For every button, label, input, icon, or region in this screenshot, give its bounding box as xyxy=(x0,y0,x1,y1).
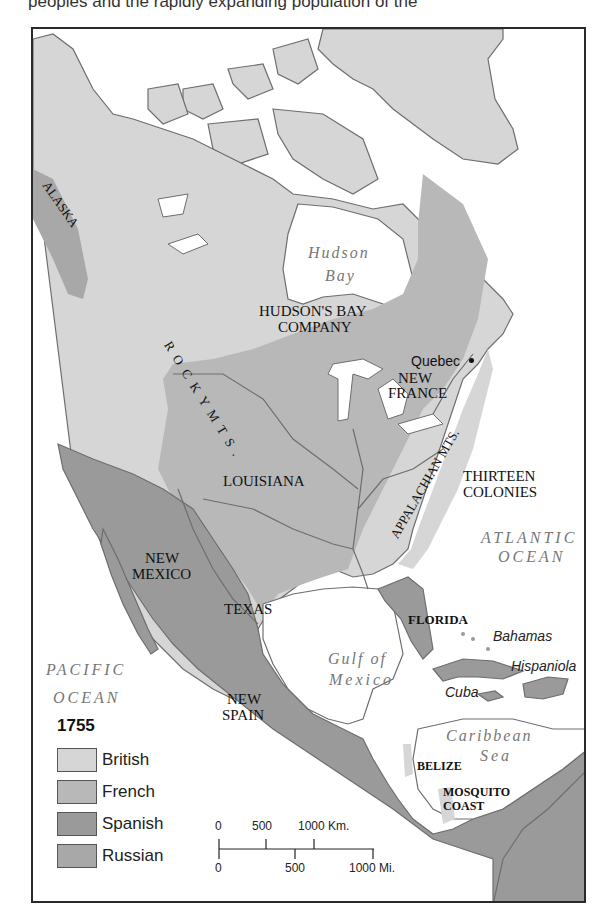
scale-bar: 0 500 1000 Km. 0 500 1000 Mi. xyxy=(218,819,378,899)
legend-item-russian: Russian xyxy=(57,840,163,872)
label-pacific-2: OCEAN xyxy=(53,689,120,707)
label-atlantic-1: ATLANTIC xyxy=(481,529,577,547)
scale-km-1000: 1000 Km. xyxy=(298,819,349,833)
label-gulf-1: Gulf of xyxy=(328,650,387,668)
legend-label: Russian xyxy=(102,846,163,866)
label-hudson-bay-1: Hudson xyxy=(308,244,370,262)
label-belize: BELIZE xyxy=(417,760,462,772)
label-thirteen-colonies-2: COLONIES xyxy=(463,485,537,500)
label-texas: TEXAS xyxy=(224,602,272,617)
scale-km-500: 500 xyxy=(252,819,272,833)
arctic-island-3 xyxy=(273,39,318,84)
scale-mi-500: 500 xyxy=(285,861,305,875)
swatch-russian xyxy=(57,844,97,868)
belize-region xyxy=(403,744,413,777)
label-florida: FLORIDA xyxy=(408,613,468,626)
label-new-spain-2: SPAIN xyxy=(222,708,264,723)
jamaica-island xyxy=(478,691,503,701)
scale-km-0: 0 xyxy=(215,819,222,833)
bahamas-dot-3 xyxy=(486,647,490,651)
legend-item-french: French xyxy=(57,776,163,808)
legend-item-british: British xyxy=(57,744,163,776)
arctic-island-1 xyxy=(183,84,223,119)
label-new-mexico-1: NEW xyxy=(145,551,179,566)
map-legend: 1755 British French Spanish Russian xyxy=(57,716,163,872)
arctic-island-2 xyxy=(228,64,273,99)
quebec-dot xyxy=(469,358,474,363)
swatch-spanish xyxy=(57,812,97,836)
arctic-island-5 xyxy=(148,84,188,124)
label-hispaniola: Hispaniola xyxy=(511,659,576,673)
legend-title: 1755 xyxy=(57,716,163,736)
legend-item-spanish: Spanish xyxy=(57,808,163,840)
label-cuba: Cuba xyxy=(445,685,478,699)
scale-mi-1000: 1000 Mi. xyxy=(349,861,395,875)
label-hudsons-bay-company-2: COMPANY xyxy=(278,320,352,335)
label-atlantic-2: OCEAN xyxy=(498,548,565,566)
page-top-text: peoples and the rapidly expanding popula… xyxy=(28,0,417,12)
hispaniola-island xyxy=(523,677,568,699)
bahamas-dot-2 xyxy=(471,637,475,641)
label-mosquito-coast-1: MOSQUITO xyxy=(443,786,510,798)
swatch-french xyxy=(57,780,97,804)
label-caribbean-1: Caribbean xyxy=(446,727,532,745)
cuba-island xyxy=(433,659,523,681)
label-pacific-1: PACIFIC xyxy=(46,661,126,679)
legend-label: Spanish xyxy=(102,814,163,834)
label-thirteen-colonies-1: THIRTEEN xyxy=(463,469,535,484)
colonial-map-1755: ALASKA Hudson Bay HUDSON'S BAY COMPANY Q… xyxy=(31,27,586,903)
scale-mi-0: 0 xyxy=(215,861,222,875)
label-bahamas: Bahamas xyxy=(493,629,552,643)
label-new-mexico-2: MEXICO xyxy=(132,567,191,582)
label-new-spain-1: NEW xyxy=(227,692,261,707)
label-louisiana: LOUISIANA xyxy=(223,474,305,489)
label-hudson-bay-2: Bay xyxy=(325,267,356,285)
legend-label: British xyxy=(102,750,149,770)
baffin-island xyxy=(273,109,378,194)
label-new-france-1: NEW xyxy=(398,371,432,386)
label-quebec: Quebec xyxy=(411,354,460,368)
label-caribbean-2: Sea xyxy=(480,747,512,765)
swatch-british xyxy=(57,748,97,772)
legend-label: French xyxy=(102,782,155,802)
label-new-france-2: FRANCE xyxy=(388,386,447,401)
label-hudsons-bay-company-1: HUDSON'S BAY xyxy=(259,304,367,319)
bahamas-dot-1 xyxy=(461,632,465,636)
label-gulf-2: Mexico xyxy=(329,671,394,689)
label-mosquito-coast-2: COAST xyxy=(443,800,484,812)
